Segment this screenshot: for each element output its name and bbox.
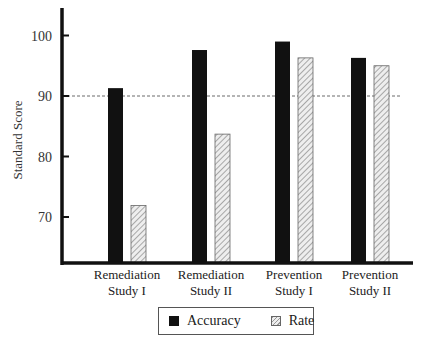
legend-label-rate: Rate <box>289 313 315 329</box>
x-category-label: Prevention <box>342 267 399 282</box>
x-category-label: Remediation <box>178 267 245 282</box>
y-tick-label: 90 <box>38 89 52 104</box>
accuracy-swatch-icon <box>169 316 179 326</box>
x-axis-labels: RemediationStudy IRemediationStudy IIPre… <box>94 267 399 298</box>
x-category-label: Remediation <box>94 267 161 282</box>
bar-rate-4 <box>374 66 389 263</box>
legend-label-accuracy: Accuracy <box>187 313 241 329</box>
bars-group <box>108 42 389 263</box>
bar-accuracy-1 <box>108 88 123 263</box>
bar-rate-1 <box>131 206 146 263</box>
bar-rate-3 <box>298 58 313 263</box>
x-category-label: Study I <box>108 283 146 298</box>
bar-accuracy-3 <box>275 42 290 263</box>
y-tick-label: 80 <box>38 150 52 165</box>
x-category-label: Study II <box>190 283 232 298</box>
rate-swatch-icon <box>271 316 281 326</box>
y-tick-label: 100 <box>31 29 52 44</box>
bar-accuracy-2 <box>192 50 207 263</box>
legend: Accuracy Rate <box>158 307 314 335</box>
bar-accuracy-4 <box>351 58 366 263</box>
y-axis-label: Standard Score <box>10 100 25 179</box>
legend-item-accuracy: Accuracy <box>159 313 241 329</box>
legend-item-rate: Rate <box>241 313 315 329</box>
y-tick-label: 70 <box>38 210 52 225</box>
bar-rate-2 <box>215 134 230 263</box>
x-category-label: Prevention <box>266 267 323 282</box>
x-category-label: Study II <box>349 283 391 298</box>
bar-chart: 708090100 RemediationStudy IRemediationS… <box>0 0 426 347</box>
x-category-label: Study I <box>275 283 313 298</box>
